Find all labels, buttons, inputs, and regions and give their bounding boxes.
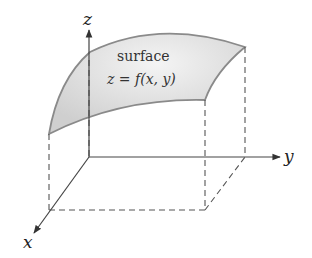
x-axis: [34, 157, 89, 233]
y-axis-label: y: [283, 146, 294, 166]
surface-equation: z = f(x, y): [106, 71, 176, 87]
x-axis-label: x: [23, 232, 33, 252]
z-axis-label: z: [82, 9, 93, 29]
surface-diagram: z y x surface z = f(x, y): [0, 0, 312, 258]
surface-label: surface: [117, 48, 170, 64]
